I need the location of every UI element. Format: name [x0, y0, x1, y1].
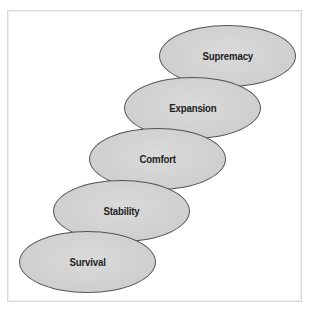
level-label: Expansion	[169, 102, 216, 114]
level-label: Survival	[69, 256, 105, 268]
level-label: Comfort	[139, 153, 175, 165]
level-survival: Survival	[19, 231, 156, 293]
level-label: Stability	[103, 205, 139, 217]
level-label: Supremacy	[202, 50, 253, 62]
